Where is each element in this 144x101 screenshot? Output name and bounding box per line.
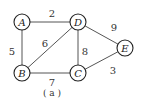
node-e-label: E (120, 43, 129, 54)
node-d: D (70, 14, 86, 30)
weight-d-c: 8 (82, 46, 88, 57)
weight-d-e: 9 (111, 22, 117, 33)
node-d-label: D (73, 17, 82, 28)
weight-a-d: 2 (49, 8, 55, 19)
node-c: C (70, 65, 86, 81)
node-b-label: B (17, 68, 25, 79)
node-e: E (117, 40, 133, 56)
node-b: B (14, 65, 30, 81)
weight-c-e: 3 (110, 65, 116, 76)
figure-caption: ( a ) (43, 88, 61, 98)
node-c-label: C (74, 68, 82, 79)
weight-b-c: 7 (49, 77, 55, 88)
weight-a-b: 5 (9, 46, 15, 57)
node-a: A (14, 14, 30, 30)
weighted-graph-diagram: 2 5 6 8 9 3 7 A D E B C ( a ) (0, 0, 144, 101)
node-a-label: A (17, 17, 25, 28)
edge-b-d (22, 22, 78, 73)
weight-b-d: 6 (42, 38, 48, 49)
